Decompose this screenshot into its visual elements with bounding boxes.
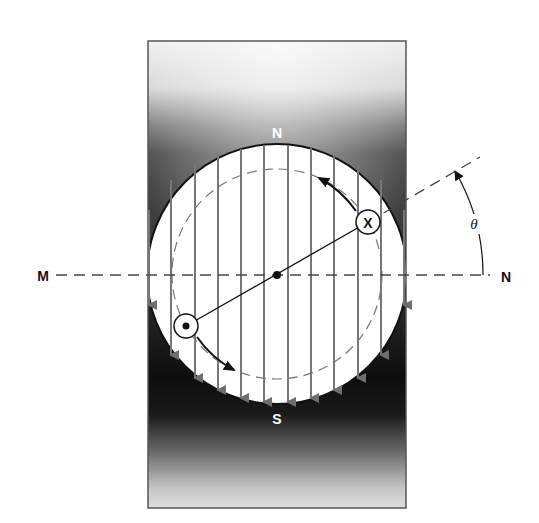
theta-label: θ xyxy=(470,216,478,232)
magnetic-field-diagram: X θ N S M N xyxy=(0,0,539,523)
dot-icon xyxy=(183,323,190,330)
conductor-x-label: X xyxy=(363,215,373,231)
axis-label-m: M xyxy=(37,268,49,284)
pivot-dot xyxy=(273,271,281,279)
north-pole-label: N xyxy=(272,125,282,141)
axis-label-n: N xyxy=(501,269,511,285)
conductor-into-page: X xyxy=(356,210,380,234)
conductor-out-of-page xyxy=(174,314,198,338)
south-pole-label: S xyxy=(272,411,281,427)
